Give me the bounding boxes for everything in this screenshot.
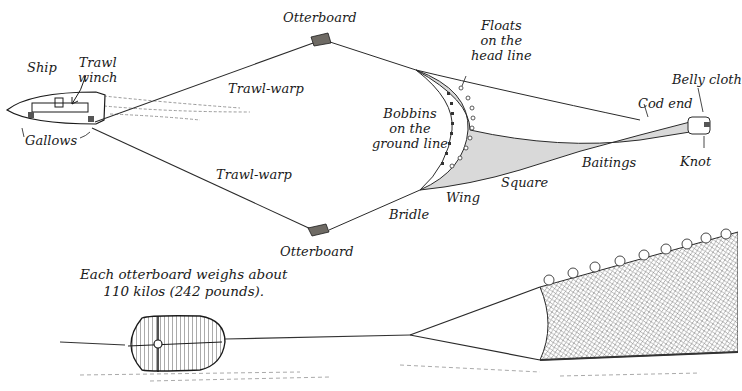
otterboard-side-view xyxy=(60,316,410,381)
caption-line2: 110 kilos (242 pounds). xyxy=(80,283,287,300)
label-bridle: Bridle xyxy=(389,207,429,222)
label-bobbins-line3: ground line xyxy=(372,136,448,151)
label-cod-end: Cod end xyxy=(638,96,693,111)
otterboard-upper-icon xyxy=(311,33,331,46)
label-ship: Ship xyxy=(27,60,57,75)
trawl-net-side-view xyxy=(400,229,738,376)
label-trawl-winch: Trawl winch xyxy=(78,55,117,85)
label-floats-line1: Floats xyxy=(471,18,532,33)
label-wing: Wing xyxy=(446,190,480,205)
label-gallows: Gallows xyxy=(25,133,77,148)
label-trawl-winch-line1: Trawl xyxy=(78,55,117,70)
label-bobbins: Bobbins on the ground line xyxy=(372,106,448,151)
label-baitings: Baitings xyxy=(582,155,636,170)
trawl-net-top-view xyxy=(416,70,710,190)
caption-line1: Each otterboard weighs about xyxy=(80,266,287,283)
otterboard-lower-icon xyxy=(308,224,329,236)
label-trawl-warp-lower: Trawl-warp xyxy=(216,167,292,182)
label-otterboard-lower: Otterboard xyxy=(280,244,353,259)
label-trawl-winch-line2: winch xyxy=(78,70,117,85)
label-trawl-warp-upper: Trawl-warp xyxy=(228,81,304,96)
label-knot: Knot xyxy=(680,154,711,169)
label-floats-line3: head line xyxy=(471,48,532,63)
label-floats-line2: on the xyxy=(471,33,532,48)
trawl-warps xyxy=(92,42,316,230)
otterboard-weight-caption: Each otterboard weighs about 110 kilos (… xyxy=(80,266,287,300)
label-square: Square xyxy=(501,175,548,190)
ship-wake xyxy=(104,96,250,120)
label-floats: Floats on the head line xyxy=(471,18,532,63)
label-bobbins-line1: Bobbins xyxy=(372,106,448,121)
ship-icon xyxy=(7,92,105,124)
label-otterboard-upper: Otterboard xyxy=(283,10,356,25)
label-bobbins-line2: on the xyxy=(372,121,448,136)
label-belly-cloth: Belly cloth xyxy=(672,72,742,87)
